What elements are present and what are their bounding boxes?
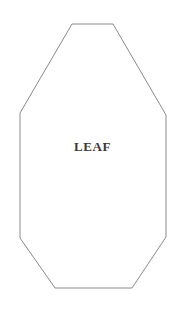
- leaf-shape-svg: [0, 0, 185, 313]
- leaf-shape-label: LEAF: [0, 139, 185, 154]
- leaf-template-canvas: LEAF: [0, 0, 185, 313]
- leaf-polygon-outline: [20, 24, 166, 288]
